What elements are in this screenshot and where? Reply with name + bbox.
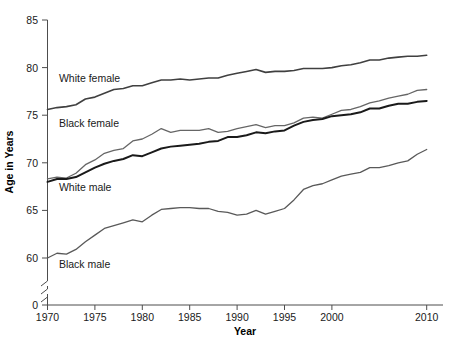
x-tick-label: 2000 xyxy=(320,311,344,323)
series-line-white-male xyxy=(48,101,427,182)
series-label-black-female: Black female xyxy=(59,117,119,129)
series-line-black-female xyxy=(48,90,427,179)
x-tick-label: 1970 xyxy=(36,311,60,323)
x-axis-ticks: 19701975198019851990199520002010 xyxy=(36,305,439,323)
data-series xyxy=(48,55,427,258)
x-tick-label: 1995 xyxy=(273,311,297,323)
series-label-white-male: White male xyxy=(59,181,112,193)
y-axis-ticks: 0606570758085 xyxy=(26,14,47,311)
series-label-white-female: White female xyxy=(59,72,120,84)
y-axis-break-marker-3 xyxy=(41,294,48,302)
y-tick-label: 65 xyxy=(26,204,38,216)
y-tick-label: 85 xyxy=(26,14,38,26)
series-label-black-male: Black male xyxy=(59,258,111,270)
x-tick-label: 1990 xyxy=(225,311,249,323)
y-tick-label: 75 xyxy=(26,109,38,121)
x-axis-title: Year xyxy=(234,325,256,337)
y-tick-label: 70 xyxy=(26,157,38,169)
y-tick-label: 0 xyxy=(32,299,38,311)
y-axis-break-marker-2 xyxy=(41,286,48,294)
y-tick-label: 60 xyxy=(26,252,38,264)
chart-canvas: 0606570758085 19701975198019851990199520… xyxy=(0,0,457,342)
life-expectancy-chart: 0606570758085 19701975198019851990199520… xyxy=(0,0,457,342)
x-tick-label: 1975 xyxy=(83,311,107,323)
x-tick-label: 1980 xyxy=(131,311,155,323)
y-tick-label: 80 xyxy=(26,62,38,74)
y-axis-title: Age in Years xyxy=(3,130,15,193)
x-tick-label: 1985 xyxy=(178,311,202,323)
x-tick-label: 2010 xyxy=(415,311,439,323)
series-line-black-male xyxy=(48,149,427,258)
y-axis-break-marker xyxy=(41,277,48,286)
